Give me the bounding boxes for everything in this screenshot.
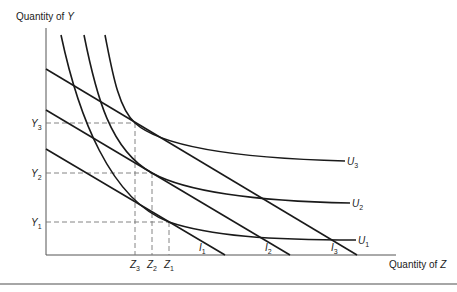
curve-label-u3: U3 (347, 156, 358, 169)
budget-line-i3 (46, 69, 357, 255)
budget-label-i1: I1 (199, 242, 206, 255)
y-tick-y3: Y3 (31, 118, 42, 131)
curve-label-u1: U1 (358, 235, 369, 248)
x-tick-z3: Z3 (129, 259, 140, 272)
budget-label-i3: I3 (331, 242, 338, 255)
diagram-figure: Quantity of Y Quantity of Z Y3 Y2 Y1 Z3 … (0, 0, 457, 292)
x-tick-z2: Z2 (146, 259, 157, 272)
budget-lines (46, 69, 357, 255)
y-tick-y1: Y1 (31, 217, 42, 230)
guide-lines (46, 123, 169, 255)
indifference-curve-u2 (84, 35, 350, 203)
x-tick-z1: Z1 (163, 259, 174, 272)
indifference-curve-u3 (105, 35, 345, 161)
budget-line-i1 (46, 149, 225, 255)
budget-line-i2 (46, 110, 290, 255)
indifference-curves (61, 35, 356, 240)
y-tick-y2: Y2 (31, 168, 42, 181)
indifference-curve-u1 (61, 35, 356, 240)
x-axis-label: Quantity of Z (389, 259, 447, 270)
curve-label-u2: U2 (352, 198, 363, 211)
y-axis-label: Quantity of Y (16, 11, 75, 22)
